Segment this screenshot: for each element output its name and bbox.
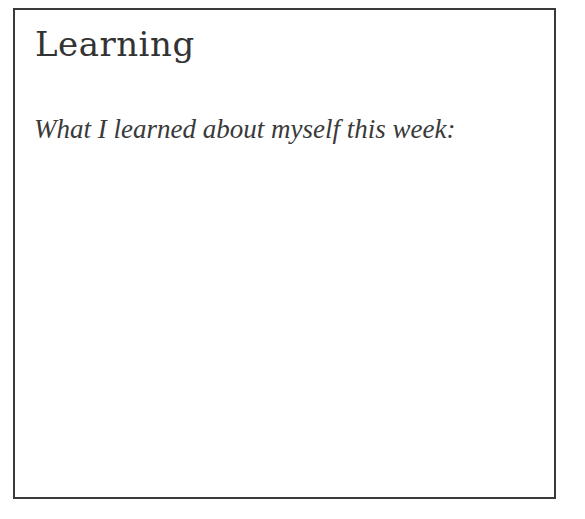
journal-prompt: What I learned about myself this week: bbox=[34, 114, 455, 145]
journal-card: Learning What I learned about myself thi… bbox=[13, 8, 556, 499]
writing-area[interactable] bbox=[34, 160, 535, 478]
card-title: Learning bbox=[35, 24, 195, 64]
